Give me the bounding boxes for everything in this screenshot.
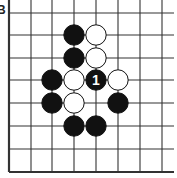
black-stone	[64, 48, 84, 68]
black-stone: 1	[86, 70, 106, 90]
black-stone	[42, 93, 62, 113]
white-stone	[86, 25, 106, 45]
white-stone	[86, 48, 106, 68]
white-stone	[64, 93, 84, 113]
black-stone	[64, 25, 84, 45]
white-stone	[108, 70, 128, 90]
black-stone	[108, 93, 128, 113]
go-board: 1	[0, 0, 177, 178]
black-stone	[42, 70, 62, 90]
black-stone	[64, 116, 84, 136]
move-number: 1	[92, 72, 100, 88]
white-stone	[64, 70, 84, 90]
black-stone	[86, 116, 106, 136]
